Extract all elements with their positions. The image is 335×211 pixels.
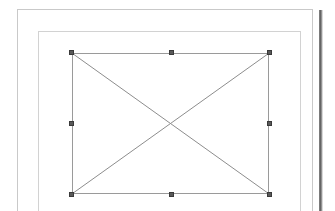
resize-handle-se[interactable] [267, 192, 272, 197]
editor-workspace[interactable]: Empty Image Frame [0, 0, 335, 211]
resize-handle-e[interactable] [267, 121, 272, 126]
page-edge-highlight [322, 10, 323, 211]
resize-handle-s[interactable] [169, 192, 174, 197]
resize-handle-sw[interactable] [69, 192, 74, 197]
resize-handle-w[interactable] [69, 121, 74, 126]
selected-image-placeholder[interactable]: Empty Image Frame [72, 53, 269, 194]
document-page[interactable]: Empty Image Frame [17, 9, 313, 211]
resize-handle-nw[interactable] [69, 50, 74, 55]
resize-handle-n[interactable] [169, 50, 174, 55]
resize-handle-ne[interactable] [267, 50, 272, 55]
image-placeholder-cross-icon [72, 53, 269, 194]
document-page-view: Empty Image Frame Page Layout View [0, 0, 335, 211]
